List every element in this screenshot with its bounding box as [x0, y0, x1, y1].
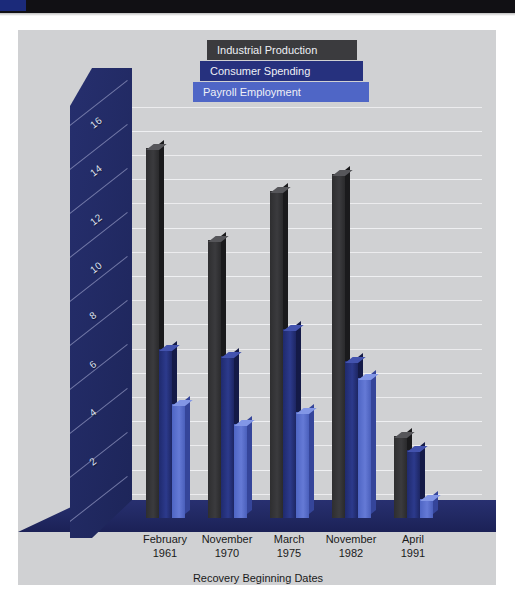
bar-1[interactable] [159, 349, 172, 518]
bar-group [394, 68, 441, 518]
plot-area [132, 68, 482, 518]
bar-face [407, 450, 420, 518]
legend-item-industrial-production[interactable]: Industrial Production [207, 40, 357, 60]
bar-0[interactable] [270, 191, 283, 518]
bar-face [296, 412, 309, 518]
wall-hatch-lines [70, 68, 132, 538]
bar-face [420, 499, 433, 518]
x-axis-label-line: April [370, 532, 456, 546]
x-axis-label: April1991 [370, 532, 456, 560]
bar-face [159, 349, 172, 518]
legend-item-payroll-employment[interactable]: Payroll Employment [193, 82, 369, 102]
bar-group [332, 68, 379, 518]
bar-2[interactable] [420, 499, 433, 518]
bar-face [394, 436, 407, 518]
bar-side [309, 404, 314, 514]
bar-0[interactable] [394, 436, 407, 518]
legend-label: Consumer Spending [210, 65, 310, 77]
bar-face [345, 361, 358, 518]
bar-face [146, 148, 159, 518]
bar-2[interactable] [358, 378, 371, 518]
x-axis-label-line: 1991 [370, 546, 456, 560]
bar-face [172, 404, 185, 518]
top-decorative-band [0, 0, 515, 13]
bar-group [208, 68, 255, 518]
bar-face [283, 329, 296, 518]
bar-1[interactable] [221, 356, 234, 518]
bar-0[interactable] [146, 148, 159, 518]
bar-face [208, 240, 221, 518]
bar-side [371, 370, 376, 514]
bar-2[interactable] [172, 404, 185, 518]
bar-1[interactable] [345, 361, 358, 518]
legend-label: Industrial Production [217, 44, 317, 56]
bar-2[interactable] [234, 424, 247, 518]
bar-1[interactable] [283, 329, 296, 518]
bar-side [185, 396, 190, 514]
bar-face [358, 378, 371, 518]
chart-legend: Industrial Production Consumer Spending … [193, 38, 403, 110]
chart-figure: 246810121416 Industrial Production Consu… [18, 30, 496, 585]
bar-2[interactable] [296, 412, 309, 518]
bar-group [270, 68, 317, 518]
wall-hatch-line [66, 300, 128, 349]
bar-0[interactable] [208, 240, 221, 518]
x-axis-title: Recovery Beginning Dates [78, 572, 438, 584]
top-band-accent-square [0, 0, 26, 11]
bar-face [234, 424, 247, 518]
bar-group [146, 68, 193, 518]
bar-0[interactable] [332, 174, 345, 518]
bar-face [270, 191, 283, 518]
legend-label: Payroll Employment [203, 86, 301, 98]
bar-face [332, 174, 345, 518]
bar-face [221, 356, 234, 518]
bar-side [247, 416, 252, 514]
bar-1[interactable] [407, 450, 420, 518]
top-band-shadow [0, 13, 515, 16]
chart-y-axis-wall [70, 68, 132, 538]
wall-hatch-line [66, 36, 128, 85]
legend-item-consumer-spending[interactable]: Consumer Spending [200, 61, 363, 81]
wall-hatch-line [66, 432, 128, 481]
